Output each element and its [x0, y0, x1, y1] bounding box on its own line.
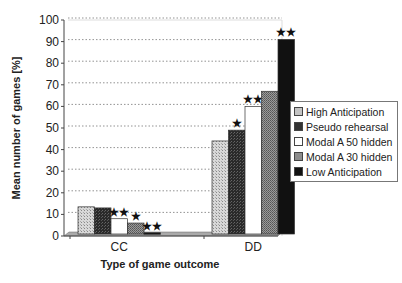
plot-area: 0102030405060708090100★★★★★CC★★★★★DD: [39, 13, 296, 254]
significance-marker: ★★: [142, 220, 162, 232]
y-tick-label: 10: [46, 207, 60, 221]
legend-item: Modal A 30 hidden: [294, 149, 394, 164]
legend-item: Modal A 50 hidden: [294, 134, 394, 149]
legend-swatch-icon: [294, 122, 303, 131]
legend-label: Modal A 30 hidden: [306, 151, 392, 163]
y-tick-label: 80: [46, 56, 60, 70]
legend-swatch-icon: [294, 152, 303, 161]
y-tick-label: 60: [46, 99, 60, 113]
legend-item: Low Anticipation: [294, 164, 394, 179]
y-axis-title: Mean number of games [%]: [10, 56, 22, 199]
y-tick-label: 70: [46, 78, 60, 92]
y-tick-label: 20: [46, 186, 60, 200]
significance-marker: ★: [131, 210, 141, 222]
bar-dd-2: [245, 106, 262, 234]
bar-dd-0: [212, 141, 229, 234]
legend-label: Low Anticipation: [306, 166, 382, 178]
x-axis-title: Type of game outcome: [101, 258, 220, 270]
y-tick-label: 50: [46, 121, 60, 135]
legend-label: Pseudo rehearsal: [306, 121, 388, 133]
legend: High AnticipationPseudo rehearsalModal A…: [290, 101, 398, 182]
legend-item: Pseudo rehearsal: [294, 119, 394, 134]
bar-cc-0: [78, 207, 95, 234]
legend-swatch-icon: [294, 167, 303, 176]
legend-label: High Anticipation: [306, 106, 384, 118]
bar-dd-3: [262, 91, 279, 234]
legend-item: High Anticipation: [294, 104, 394, 119]
legend-swatch-icon: [294, 137, 303, 146]
significance-marker: ★★: [276, 26, 296, 38]
bar-cc-4: [144, 233, 161, 235]
significance-marker: ★: [232, 117, 242, 129]
bar-cc-2: [111, 219, 128, 234]
y-tick-label: 40: [46, 143, 60, 157]
y-tick-label: 0: [52, 229, 59, 243]
bar-dd-1: [229, 130, 246, 234]
category-label: DD: [245, 240, 263, 254]
category-label: CC: [111, 240, 129, 254]
legend-label: Modal A 50 hidden: [306, 136, 392, 148]
legend-swatch-icon: [294, 107, 303, 116]
y-tick-label: 100: [39, 13, 59, 27]
y-tick-label: 30: [46, 164, 60, 178]
significance-marker: ★★: [109, 206, 129, 218]
y-tick-label: 90: [46, 35, 60, 49]
significance-marker: ★★: [243, 93, 263, 105]
